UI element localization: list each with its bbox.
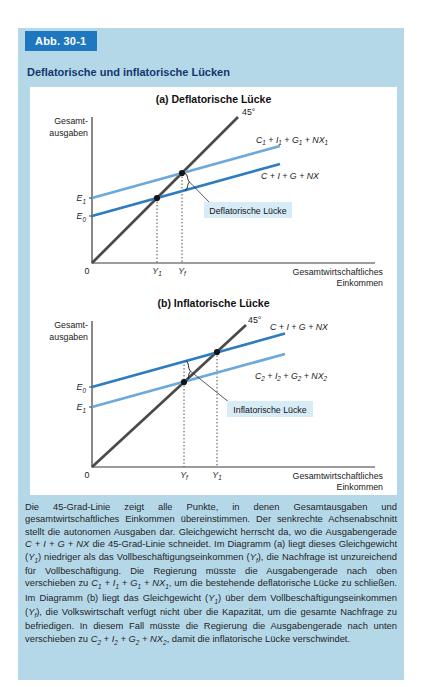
equilibrium-point — [181, 379, 187, 385]
line-45deg — [92, 117, 238, 263]
origin-label: 0 — [85, 266, 90, 276]
callout-label: Deflatorische Lücke — [209, 206, 286, 216]
callout-pointer-line — [191, 371, 231, 403]
x-tick-label: Y1 — [212, 470, 221, 481]
label-45deg: 45° — [248, 315, 261, 325]
expenditure-line-label: C1 + I1 + G1 + NX1 — [256, 135, 328, 146]
callout-label: Inflatorische Lücke — [233, 405, 306, 415]
figure-tag: Abb. 30-1 — [25, 31, 97, 51]
diagram-b-title: (b) Inflatorische Lücke — [30, 291, 397, 309]
label-45deg: 45° — [242, 107, 255, 117]
figure-caption: Die 45-Grad-Linie zeigt alle Punkte, in … — [25, 501, 397, 647]
equilibrium-point — [214, 349, 220, 355]
page: Abb. 30-1 Deflatorische und inflatorisch… — [0, 0, 423, 687]
caption-math: C + I + G + NX — [25, 538, 89, 549]
figure-card: Abb. 30-1 Deflatorische und inflatorisch… — [18, 28, 404, 680]
y-axis-label: ausgaben — [49, 128, 88, 138]
diagram-b-chart: Gesamt-ausgabenGesamtwirtschaftlichesEin… — [30, 309, 397, 495]
y-axis-label: ausgaben — [49, 332, 88, 342]
caption-math: Yf — [28, 606, 36, 617]
diagram-a-title: (a) Deflatorische Lücke — [30, 87, 397, 105]
figure-title: Deflatorische und inflatorische Lücken — [27, 66, 230, 78]
x-tick-label: Y1 — [152, 266, 161, 277]
caption-math: C2 + I2 + G2 + NX2 — [91, 633, 167, 644]
y-axis-label: Gesamt- — [54, 320, 88, 330]
caption-math: Y1 — [28, 551, 38, 562]
expenditure-line-label: C + I + G + NX — [261, 171, 320, 181]
origin-label: 0 — [85, 470, 90, 480]
equilibrium-point — [154, 195, 160, 201]
diagrams-panel: (a) Deflatorische Lücke Gesamt-ausgabenG… — [30, 87, 397, 495]
y-tick-label: E1 — [77, 193, 86, 204]
x-axis-label: Gesamtwirtschaftliches — [293, 267, 384, 277]
expenditure-line-label: C2 + I2 + G2 + NX2 — [255, 371, 328, 382]
y-tick-label: E0 — [77, 211, 87, 222]
x-axis-label: Gesamtwirtschaftliches — [293, 471, 384, 481]
caption-math: Y1 — [208, 592, 218, 603]
x-tick-label: Yf — [178, 266, 187, 277]
caption-math: C1 + I1 + G1 + NX1 — [91, 577, 169, 588]
expenditure-line-label: C + I + G + NX — [270, 322, 329, 332]
y-tick-label: E0 — [77, 382, 87, 393]
line-45deg — [92, 325, 246, 467]
y-tick-label: E1 — [77, 402, 86, 413]
equilibrium-point — [179, 170, 185, 176]
x-axis-label: Einkommen — [337, 278, 384, 288]
x-tick-label: Yf — [180, 470, 189, 481]
x-axis-label: Einkommen — [337, 482, 384, 492]
caption-math: Yf — [250, 551, 258, 562]
y-axis-label: Gesamt- — [54, 116, 88, 126]
axes — [92, 117, 375, 263]
diagram-a-chart: Gesamt-ausgabenGesamtwirtschaftlichesEin… — [30, 105, 397, 291]
